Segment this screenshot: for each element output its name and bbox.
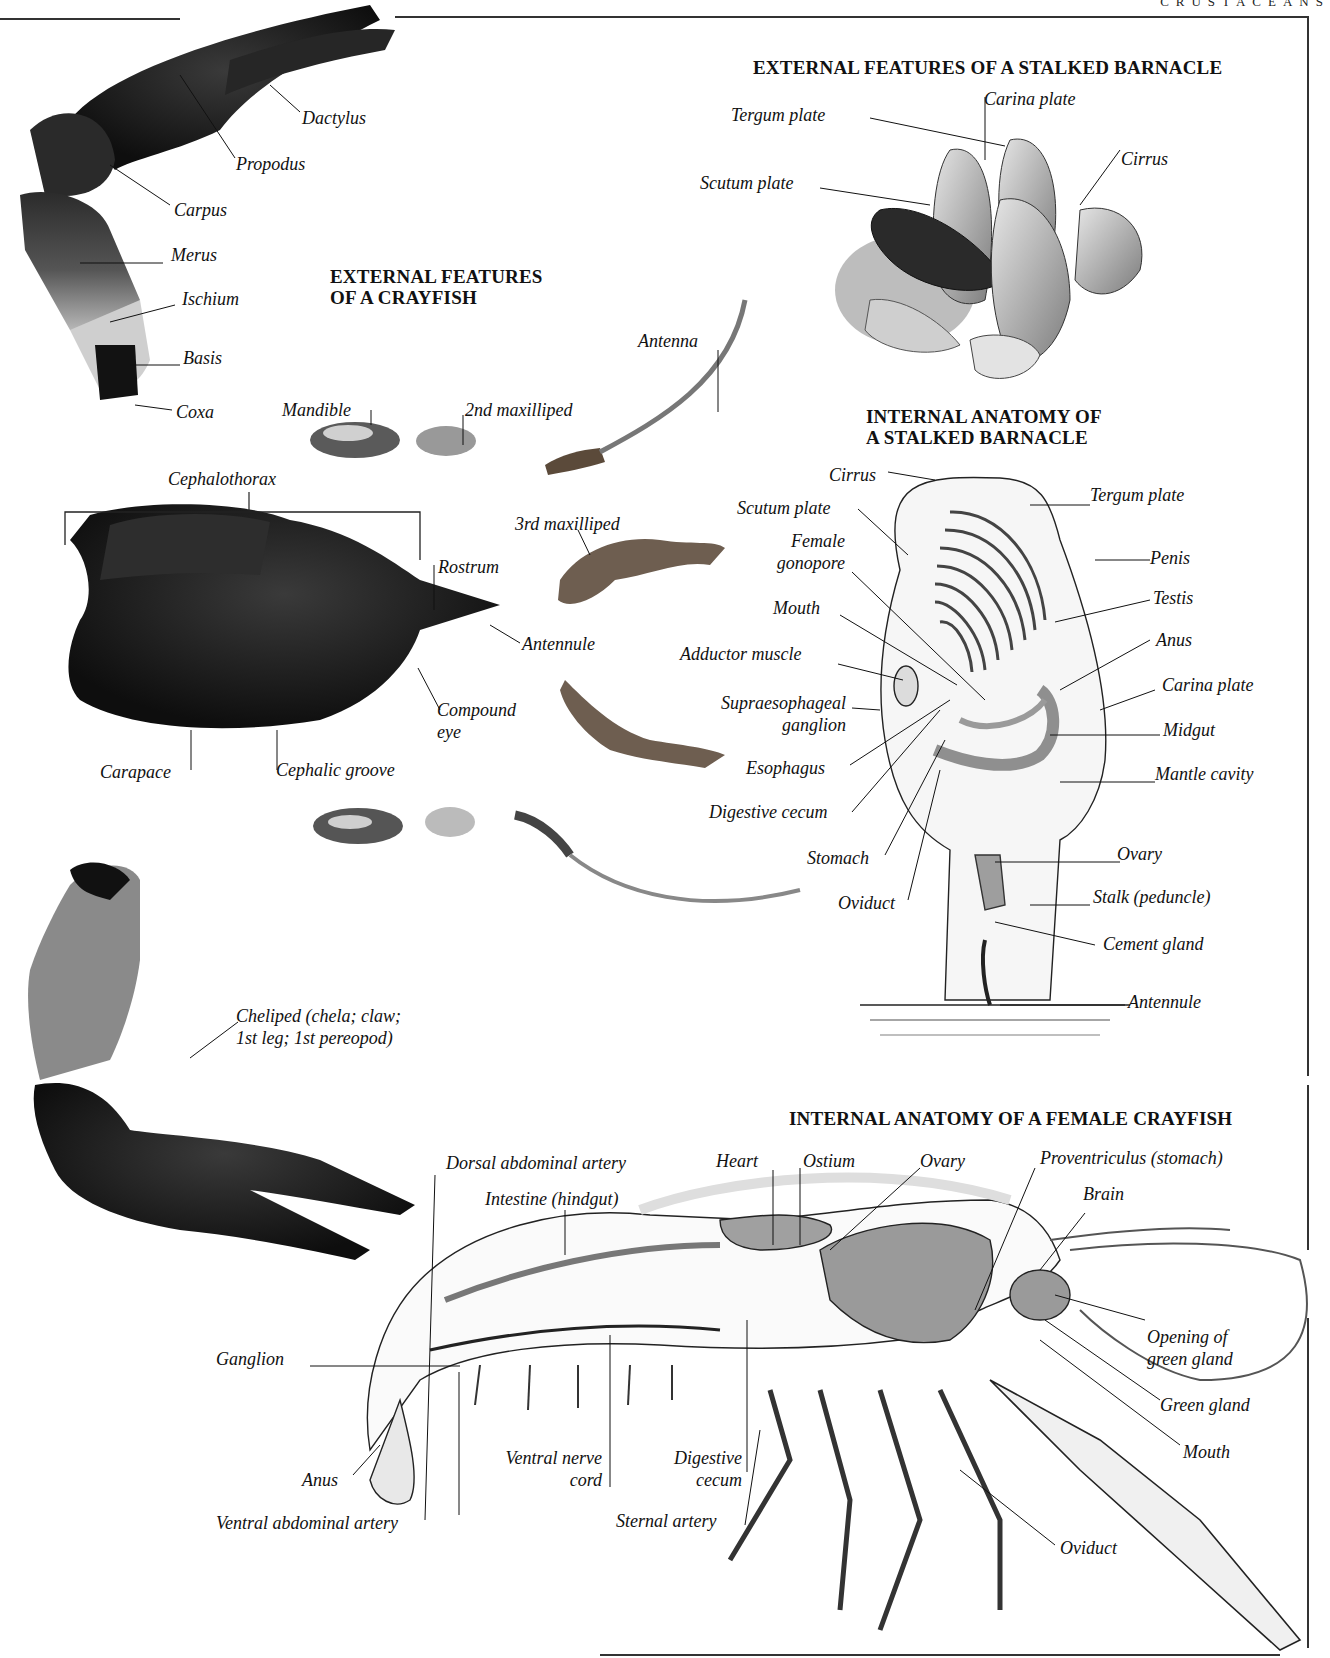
label-bi-digestive-cecum: Digestive cecum [709,801,827,823]
label-bi-stalk: Stalk (peduncle) [1093,886,1210,908]
label-antennule: Antennule [522,633,595,655]
label-compound-eye-line1: Compound [437,699,516,721]
barnacle-internal-title-line1: INTERNAL ANATOMY OF [866,406,1102,427]
label-ci-opening-green-gland-line2: green gland [1147,1348,1233,1370]
label-cephalothorax: Cephalothorax [168,468,276,490]
label-propodus: Propodus [236,153,305,175]
label-cephalic-groove: Cephalic groove [276,759,395,781]
label-ci-ventral-nerve-cord-line2: cord [470,1469,602,1491]
label-ci-sternal-artery: Sternal artery [616,1510,717,1532]
crayfish-external-title-line1: EXTERNAL FEATURES [330,266,543,287]
crayfish-internal-title: INTERNAL ANATOMY OF A FEMALE CRAYFISH [789,1108,1232,1129]
label-bi-stomach: Stomach [807,847,869,869]
label-bi-mantle-cavity: Mantle cavity [1155,763,1253,785]
crayfish-external-title-line2: OF A CRAYFISH [330,287,543,308]
mouthparts-row-top [310,300,745,475]
label-merus: Merus [171,244,217,266]
label-bi-scutum-plate: Scutum plate [737,497,830,519]
label-bi-cement-gland: Cement gland [1103,933,1204,955]
label-compound-eye: Compound eye [437,699,516,743]
label-barnacle-carina-plate: Carina plate [984,88,1076,110]
label-ci-opening-green-gland: Opening of green gland [1147,1326,1233,1370]
label-ci-dorsal-abdominal-artery: Dorsal abdominal artery [446,1152,626,1174]
label-dactylus: Dactylus [302,107,366,129]
label-carpus: Carpus [174,199,227,221]
label-ci-digestive-cecum: Digestive cecum [640,1447,742,1491]
label-basis: Basis [183,347,222,369]
label-ci-ventral-nerve-cord-line1: Ventral nerve [470,1447,602,1469]
crayfish-external-title: EXTERNAL FEATURES OF A CRAYFISH [330,266,543,308]
label-barnacle-scutum-plate: Scutum plate [700,172,793,194]
label-bi-tergum-plate: Tergum plate [1090,484,1184,506]
carapace-photo [68,504,500,728]
label-bi-midgut: Midgut [1163,719,1215,741]
label-bi-adductor-muscle: Adductor muscle [680,643,801,665]
barnacle-internal-title: INTERNAL ANATOMY OF A STALKED BARNACLE [866,406,1102,448]
label-bi-mouth: Mouth [773,597,820,619]
label-bi-cirrus: Cirrus [829,464,876,486]
label-bi-supraesophageal-line1: Supraesophageal [680,692,846,714]
label-bi-oviduct: Oviduct [838,892,895,914]
label-ci-anus: Anus [302,1469,338,1491]
label-ci-ventral-nerve-cord: Ventral nerve cord [470,1447,602,1491]
label-2nd-maxilliped: 2nd maxilliped [465,399,572,421]
label-bi-testis: Testis [1153,587,1193,609]
label-coxa: Coxa [176,401,214,423]
barnacle-photo [835,139,1142,378]
label-antenna: Antenna [638,330,698,352]
label-bi-carina-plate: Carina plate [1162,674,1254,696]
label-ci-digestive-cecum-line2: cecum [640,1469,742,1491]
label-bi-supraesophageal-line2: ganglion [680,714,846,736]
label-cheliped: Cheliped (chela; claw; 1st leg; 1st pere… [236,1005,401,1049]
label-bi-anus: Anus [1156,629,1192,651]
label-ci-intestine: Intestine (hindgut) [485,1188,618,1210]
label-bi-female-gonopore-line2: gonopore [745,552,845,574]
label-ci-oviduct: Oviduct [1060,1537,1117,1559]
label-barnacle-cirrus: Cirrus [1121,148,1168,170]
label-bi-ovary: Ovary [1117,843,1162,865]
label-bi-penis: Penis [1150,547,1190,569]
label-ci-opening-green-gland-line1: Opening of [1147,1326,1233,1348]
label-ci-ganglion: Ganglion [216,1348,284,1370]
label-ci-ventral-abdominal-artery: Ventral abdominal artery [216,1512,398,1534]
label-ci-mouth: Mouth [1183,1441,1230,1463]
label-bi-supraesophageal-ganglion: Supraesophageal ganglion [680,692,846,736]
label-bi-female-gonopore: Female gonopore [745,530,845,574]
label-rostrum: Rostrum [438,556,499,578]
label-compound-eye-line2: eye [437,721,516,743]
label-ci-green-gland: Green gland [1160,1394,1250,1416]
label-ci-ostium: Ostium [803,1150,855,1172]
barnacle-external-title: EXTERNAL FEATURES OF A STALKED BARNACLE [753,57,1222,78]
label-ci-ovary: Ovary [920,1150,965,1172]
cheliped-photo [28,863,415,1260]
label-cheliped-line1: Cheliped (chela; claw; [236,1005,401,1027]
label-barnacle-tergum-plate: Tergum plate [731,104,825,126]
label-ci-heart: Heart [716,1150,758,1172]
barnacle-internal-title-line2: A STALKED BARNACLE [866,427,1102,448]
label-ischium: Ischium [182,288,239,310]
label-ci-digestive-cecum-line1: Digestive [640,1447,742,1469]
label-mandible: Mandible [282,399,351,421]
label-ci-brain: Brain [1083,1183,1124,1205]
label-bi-esophagus: Esophagus [746,757,825,779]
label-carapace: Carapace [100,761,171,783]
label-cheliped-line2: 1st leg; 1st pereopod) [236,1027,401,1049]
label-bi-female-gonopore-line1: Female [745,530,845,552]
label-bi-antennule: Antennule [1128,991,1201,1013]
label-3rd-maxilliped: 3rd maxilliped [515,513,620,535]
label-ci-proventriculus: Proventriculus (stomach) [1040,1147,1223,1169]
